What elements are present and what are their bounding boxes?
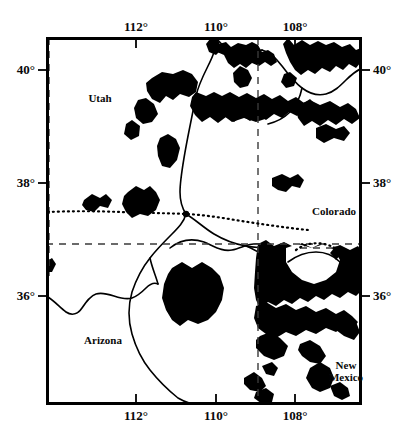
axis-label-bottom-112: 112° (124, 408, 148, 424)
axis-label-bottom-110: 110° (204, 408, 228, 424)
axis-label-left-40: 40° (17, 62, 35, 78)
axis-label-right-36: 36° (373, 288, 391, 304)
state-label-utah: Utah (88, 92, 111, 104)
axis-label-left-38: 38° (17, 175, 35, 191)
axis-label-bottom-108: 108° (283, 408, 308, 424)
axis-label-right-38: 38° (373, 175, 391, 191)
map-figure: 112° 110° 108° 112° 110° 108° 40° 38° 36… (0, 0, 403, 439)
state-label-new-mexico: New Mexico (329, 359, 363, 383)
axis-label-top-110: 110° (204, 19, 228, 35)
state-label-arizona: Arizona (84, 334, 122, 346)
axis-label-right-40: 40° (373, 62, 391, 78)
state-label-colorado: Colorado (312, 205, 356, 217)
axis-label-top-108: 108° (283, 19, 308, 35)
axis-label-left-36: 36° (17, 288, 35, 304)
axis-label-top-112: 112° (124, 19, 148, 35)
circle-marker (183, 211, 189, 217)
